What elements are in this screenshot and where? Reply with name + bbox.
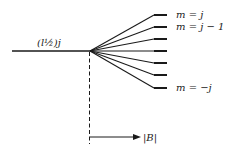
axis-label-B: |B| <box>143 132 157 144</box>
zeeman-diagram: (l½)j m = j m = j − 1 m = −j |B| <box>0 0 225 149</box>
label-m-j: m = j <box>176 9 203 20</box>
splitting-fan <box>90 15 154 88</box>
level-label: (l½)j <box>37 37 61 48</box>
label-m-minus-j: m = −j <box>176 82 212 93</box>
sublevel-bars <box>154 15 167 88</box>
arrowhead-icon <box>133 134 141 140</box>
label-m-j-minus-1: m = j − 1 <box>176 21 224 32</box>
